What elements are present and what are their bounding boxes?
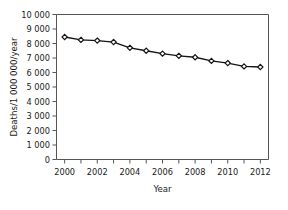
x-tick-label: 2000 — [54, 167, 75, 177]
data-point-marker — [193, 55, 198, 60]
data-point-marker — [111, 39, 116, 44]
y-tick-label: 0 — [45, 155, 50, 165]
plot-frame-group — [57, 15, 269, 160]
x-tick-label: 2010 — [217, 167, 238, 177]
data-point-marker — [258, 64, 263, 69]
data-point-marker — [209, 58, 214, 63]
y-tick-label: 1 000 — [27, 140, 50, 150]
y-tick-label: 3 000 — [27, 111, 50, 121]
y-tick-label: 4 000 — [27, 97, 50, 107]
y-tick-label: 2 000 — [27, 126, 50, 136]
y-tick-label: 6 000 — [27, 68, 50, 78]
x-axis-group: 2000200220042006200820102012 — [54, 160, 271, 178]
data-point-marker — [127, 45, 132, 50]
data-point-marker — [62, 34, 67, 39]
x-tick-label: 2006 — [152, 167, 173, 177]
y-tick-label: 7 000 — [27, 53, 50, 63]
y-tick-label: 10 000 — [21, 10, 50, 20]
data-point-marker — [160, 51, 165, 56]
data-point-marker — [95, 38, 100, 43]
data-point-marker — [225, 60, 230, 65]
y-tick-label: 8 000 — [27, 39, 50, 49]
data-point-marker — [144, 48, 149, 53]
y-tick-label: 5 000 — [27, 82, 50, 92]
data-point-marker — [241, 64, 246, 69]
x-tick-label: 2004 — [119, 167, 140, 177]
x-axis-title: Year — [152, 184, 172, 194]
x-tick-label: 2012 — [250, 167, 271, 177]
x-tick-label: 2008 — [185, 167, 206, 177]
line-chart-canvas: 01 0002 0003 0004 0005 0006 0007 0008 00… — [0, 0, 288, 210]
data-point-marker — [176, 53, 181, 58]
y-axis-title: Deaths/1 000 000/year — [9, 37, 19, 137]
plot-frame — [57, 15, 269, 160]
x-tick-label: 2002 — [87, 167, 108, 177]
y-axis-group: 01 0002 0003 0004 0005 0006 0007 0008 00… — [21, 10, 56, 165]
chart-figure: 01 0002 0003 0004 0005 0006 0007 0008 00… — [0, 0, 288, 210]
y-tick-label: 9 000 — [27, 24, 50, 34]
data-point-marker — [78, 37, 83, 42]
